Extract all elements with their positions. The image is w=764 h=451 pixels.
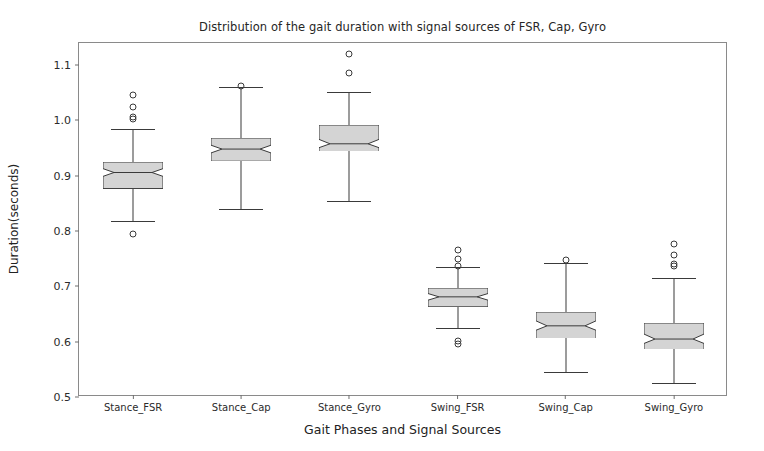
box-notched (319, 125, 379, 152)
whisker-cap-upper (111, 129, 155, 130)
x-tick-label: Stance_Gyro (318, 399, 381, 413)
x-tick-swing_gyro: Swing_Gyro (645, 395, 704, 413)
x-tick-swing_cap: Swing_Cap (539, 395, 593, 413)
outlier-point (454, 340, 461, 347)
whisker-lower (349, 151, 350, 200)
x-axis-title: Gait Phases and Signal Sources (78, 422, 727, 437)
x-tick-label: Swing_Cap (539, 399, 593, 413)
y-axis-title: Duration(seconds) (7, 164, 21, 275)
whisker-lower (457, 307, 458, 328)
y-tick-mark (75, 286, 79, 287)
outlier-point (346, 69, 353, 76)
y-tick: 1.1 (54, 59, 80, 72)
whisker-lower (673, 349, 674, 383)
outlier-point (130, 103, 137, 110)
figure-canvas: Distribution of the gait duration with s… (0, 0, 764, 451)
whisker-cap-lower (436, 328, 480, 329)
whisker-lower (241, 161, 242, 209)
outlier-point (130, 91, 137, 98)
y-tick: 1.0 (54, 114, 80, 127)
whisker-cap-upper (327, 92, 371, 93)
outlier-point (670, 241, 677, 248)
chart-title: Distribution of the gait duration with s… (78, 20, 727, 34)
whisker-cap-lower (652, 383, 696, 384)
x-tick-label: Stance_Cap (212, 399, 271, 413)
whisker-cap-lower (219, 209, 263, 210)
y-tick-label: 0.6 (54, 335, 76, 348)
whisker-upper (241, 87, 242, 138)
y-tick: 0.7 (54, 280, 80, 293)
y-tick-label: 1.1 (54, 59, 76, 72)
whisker-lower (565, 338, 566, 372)
whisker-upper (565, 263, 566, 312)
y-tick-mark (75, 65, 79, 66)
outlier-point (562, 256, 569, 263)
y-tick-label: 0.9 (54, 169, 76, 182)
y-tick-mark (75, 397, 79, 398)
whisker-upper (349, 92, 350, 125)
x-tick-label: Swing_Gyro (645, 399, 704, 413)
y-tick-label: 0.8 (54, 225, 76, 238)
y-tick-mark (75, 120, 79, 121)
box-notched (536, 312, 596, 339)
outlier-point (346, 51, 353, 58)
y-tick-mark (75, 175, 79, 176)
y-tick: 0.8 (54, 225, 80, 238)
outlier-point (670, 252, 677, 259)
box-notched (103, 162, 163, 189)
y-tick-mark (75, 231, 79, 232)
outlier-point (130, 230, 137, 237)
box-notched (211, 138, 271, 161)
y-tick-label: 0.5 (54, 391, 76, 404)
box-notched (428, 288, 488, 307)
whisker-lower (133, 189, 134, 221)
whisker-upper (673, 278, 674, 323)
outlier-point (454, 255, 461, 262)
x-tick-label: Stance_FSR (104, 399, 162, 413)
y-tick: 0.6 (54, 335, 80, 348)
x-tick-stance_gyro: Stance_Gyro (318, 395, 381, 413)
x-tick-swing_fsr: Swing_FSR (431, 395, 485, 413)
whisker-cap-lower (111, 221, 155, 222)
x-tick-stance_cap: Stance_Cap (212, 395, 271, 413)
whisker-upper (457, 267, 458, 288)
outlier-point (670, 263, 677, 270)
y-tick-label: 0.7 (54, 280, 76, 293)
outlier-point (454, 246, 461, 253)
outlier-point (454, 263, 461, 270)
x-tick-label: Swing_FSR (431, 399, 485, 413)
whisker-upper (133, 129, 134, 163)
whisker-cap-lower (327, 201, 371, 202)
box-notched (644, 323, 704, 350)
y-tick: 0.5 (54, 391, 80, 404)
whisker-cap-lower (544, 372, 588, 373)
outlier-point (130, 116, 137, 123)
y-tick: 0.9 (54, 169, 80, 182)
outlier-point (238, 83, 245, 90)
plot-area: 0.50.60.70.80.91.01.1 Stance_FSRStance_C… (78, 42, 727, 396)
y-tick-label: 1.0 (54, 114, 76, 127)
y-tick-mark (75, 341, 79, 342)
whisker-cap-upper (652, 278, 696, 279)
x-tick-stance_fsr: Stance_FSR (104, 395, 162, 413)
